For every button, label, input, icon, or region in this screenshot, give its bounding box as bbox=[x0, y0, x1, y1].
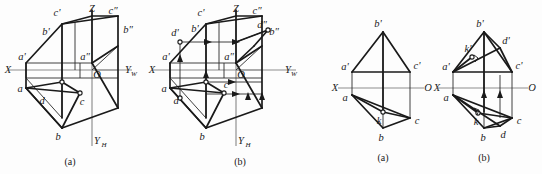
panel2-caption: (b) bbox=[234, 156, 246, 168]
panel2-label-c-prime: c' bbox=[198, 7, 206, 18]
panel2-label-y-w-sub: W bbox=[291, 70, 298, 78]
panel1-label-y-h-sub: H bbox=[100, 141, 107, 149]
panel1-node-d bbox=[60, 80, 64, 84]
panel4-caption: (b) bbox=[478, 152, 490, 164]
panel2-label-a-dprime: a″ bbox=[224, 51, 234, 62]
panel1-label-c: c bbox=[80, 96, 85, 107]
panel3-label-a-prime: a' bbox=[341, 61, 349, 72]
panel3-label-b: b bbox=[378, 132, 383, 143]
panel2-label-b: b bbox=[199, 131, 204, 142]
panel4-label-c-prime: c' bbox=[516, 60, 524, 71]
panel1-label-b-dprime: b″ bbox=[123, 24, 133, 35]
panel4-arrow-up-2 bbox=[497, 90, 503, 98]
arrow-right-3 bbox=[228, 79, 236, 85]
panel4-arrow-up-1 bbox=[481, 90, 487, 98]
panel2-label-c-dprime: c″ bbox=[252, 5, 262, 16]
panel4-label-b: b bbox=[480, 132, 485, 143]
panel3-label-a: a bbox=[342, 92, 347, 103]
panel2-label-z: Z bbox=[233, 3, 239, 14]
panel2-label-y-h: Y bbox=[238, 135, 245, 146]
panel2-label-y-h-sub: H bbox=[244, 141, 251, 149]
panel1-label-a-prime: a' bbox=[18, 51, 26, 62]
arrow-up-2 bbox=[203, 70, 209, 78]
panel1-label-d: d bbox=[39, 95, 45, 106]
panel2-label-d: d bbox=[173, 95, 179, 106]
panel3-node-k bbox=[381, 110, 385, 114]
panel4-arrows bbox=[481, 90, 503, 98]
panel2-label-d-dprime: d″ bbox=[257, 19, 267, 30]
arrow-right-1 bbox=[204, 39, 212, 45]
panel4-label-o: O bbox=[528, 82, 536, 93]
panel4-label-a: a bbox=[443, 92, 448, 103]
panel1-label-a: a bbox=[17, 83, 22, 94]
panel-2-axonometric: c' Z c″ d' b' b″ d″ a' a″ X O Y W a d c … bbox=[148, 3, 298, 168]
panel3-label-c-prime: c' bbox=[414, 60, 422, 71]
panel2-node-d bbox=[204, 80, 208, 84]
panel2-label-b-dprime: b″ bbox=[269, 26, 279, 37]
panel-3-orthographic: b' a' c' X O a k c b (a) bbox=[331, 18, 432, 164]
panel1-node-c bbox=[78, 91, 82, 95]
panel2-node-d-prime bbox=[178, 40, 182, 44]
panel2-label-d-prime: d' bbox=[171, 27, 179, 38]
panel1-label-z: Z bbox=[89, 3, 95, 14]
panel1-label-c-prime: c' bbox=[54, 7, 62, 18]
panel-1-axonometric: c' Z c″ b' b″ a' a″ X O Y W a d c b Y H … bbox=[4, 3, 138, 168]
panel1-caption: (a) bbox=[64, 156, 75, 168]
panel4-label-k: k bbox=[474, 116, 479, 127]
panel1-label-x: X bbox=[4, 64, 12, 75]
panel4-label-d-prime: d' bbox=[502, 35, 510, 46]
panel4-label-c: c bbox=[517, 115, 522, 126]
panel4-label-x: X bbox=[433, 82, 441, 93]
panel3-label-x: X bbox=[331, 82, 339, 93]
panel1-label-c-dprime: c″ bbox=[108, 5, 118, 16]
panel1-label-y-h: Y bbox=[94, 135, 101, 146]
panel1-label-o: O bbox=[93, 69, 101, 80]
panel3-label-b-prime: b' bbox=[374, 18, 382, 29]
panel4-node-k-prime bbox=[470, 55, 474, 59]
panel4-label-k-prime: k' bbox=[465, 43, 473, 54]
panel2-label-x: X bbox=[148, 64, 156, 75]
panel2-label-c: c bbox=[224, 79, 229, 90]
panel3-label-c: c bbox=[415, 115, 420, 126]
panel-4-orthographic: b' d' k' a' c' X O a k b d c (b) bbox=[433, 18, 536, 164]
panel1-label-y-w-sub: W bbox=[131, 70, 138, 78]
panel3-label-o: O bbox=[424, 82, 432, 93]
panel2-node-c bbox=[222, 91, 226, 95]
panel1-label-b-prime: b' bbox=[42, 26, 50, 37]
panel2-label-a-prime: a' bbox=[162, 51, 170, 62]
panel3-label-k: k bbox=[377, 115, 382, 126]
figure-svg: c' Z c″ b' b″ a' a″ X O Y W a d c b Y H … bbox=[0, 0, 542, 174]
arrow-up-3 bbox=[259, 92, 265, 100]
panel4-lower-view bbox=[453, 95, 512, 128]
panel2-label-o: O bbox=[237, 69, 245, 80]
panel3-caption: (a) bbox=[377, 152, 388, 164]
panel2-label-a: a bbox=[161, 83, 166, 94]
figure-canvas: c' Z c″ b' b″ a' a″ X O Y W a d c b Y H … bbox=[0, 0, 542, 174]
panel4-label-d: d bbox=[500, 129, 506, 140]
panel1-label-b: b bbox=[55, 131, 60, 142]
arrow-up-4 bbox=[245, 92, 251, 100]
panel2-label-b-prime: b' bbox=[191, 23, 199, 34]
panel4-label-b-prime: b' bbox=[476, 18, 484, 29]
panel4-label-a-prime: a' bbox=[442, 61, 450, 72]
panel1-label-a-dprime: a″ bbox=[80, 51, 90, 62]
